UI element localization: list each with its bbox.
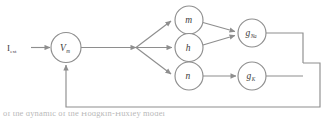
branch-to-n-gate <box>136 48 171 75</box>
figure-caption-clipped: of the dynamic of the Hodgkin-Huxley mod… <box>0 112 328 119</box>
hodgkin-huxley-block-diagram: Iext Vm m h <box>0 0 328 119</box>
node-gna: gNa <box>238 19 266 47</box>
input-current-label: Iext <box>7 43 17 54</box>
diagram-canvas: Iext Vm m h <box>0 0 328 119</box>
node-m-label: m <box>185 15 192 25</box>
branch-to-m-gate <box>136 21 171 48</box>
node-n-label: n <box>186 71 191 81</box>
node-n: n <box>175 62 203 90</box>
gna-feedback-wire <box>266 33 303 63</box>
m-to-gna-wire <box>203 23 235 32</box>
h-to-gna-wire <box>203 36 235 46</box>
node-gk: gK <box>238 62 266 90</box>
node-h-label: h <box>186 43 191 53</box>
figure-caption-text: of the dynamic of the Hodgkin-Huxley mod… <box>3 112 325 118</box>
node-m: m <box>175 6 203 34</box>
node-h: h <box>175 34 203 62</box>
node-vm: Vm <box>51 33 81 63</box>
